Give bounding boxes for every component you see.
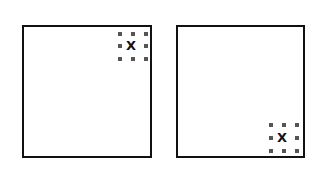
- right-panel: X: [176, 25, 305, 158]
- grid-dot: [282, 149, 286, 153]
- grid-dot: [118, 32, 122, 36]
- grid-dot: [269, 123, 273, 127]
- grid-dot: [131, 32, 135, 36]
- grid-dot: [118, 57, 122, 61]
- grid-dot: [282, 123, 286, 127]
- x-marker: X: [277, 132, 287, 144]
- grid-dot: [295, 149, 299, 153]
- grid-dot: [269, 149, 273, 153]
- x-marker: X: [126, 40, 136, 52]
- grid-dot: [144, 44, 148, 48]
- grid-dot: [295, 123, 299, 127]
- grid-dot: [131, 57, 135, 61]
- grid-dot: [144, 57, 148, 61]
- grid-dot: [295, 136, 299, 140]
- grid-dot: [118, 44, 122, 48]
- left-panel: X: [22, 25, 152, 158]
- grid-dot: [144, 32, 148, 36]
- grid-dot: [269, 136, 273, 140]
